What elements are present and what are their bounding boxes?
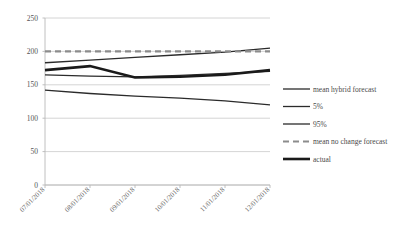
y-tick-label: 50 [31,147,39,156]
series-5- [45,90,270,105]
x-tick-label: 08/01/2018 [63,185,92,214]
axis-tickmarks [43,18,271,188]
chart-canvas: 050100150200250 07/01/201808/01/201809/0… [0,0,409,237]
x-tick-label: 07/01/2018 [18,185,47,214]
line-chart: 050100150200250 07/01/201808/01/201809/0… [0,0,409,237]
y-axis-tick-labels: 050100150200250 [27,14,39,190]
chart-legend: mean hybrid forecast5%95%mean no change … [283,85,388,164]
y-tick-label: 150 [27,80,39,89]
x-axis-tick-labels: 07/01/201808/01/201809/01/201810/01/2018… [18,185,272,214]
data-series-group [45,48,270,105]
x-tick-label: 12/01/2018 [243,185,272,214]
legend-label: 5% [313,102,323,111]
legend-label: mean hybrid forecast [313,85,377,94]
x-tick-label: 10/01/2018 [153,185,182,214]
y-tick-label: 200 [27,47,39,56]
series-95- [45,48,270,63]
y-tick-label: 250 [27,14,39,23]
legend-label: 95% [313,120,327,129]
legend-label: actual [313,155,331,164]
y-tick-label: 100 [27,114,39,123]
x-tick-label: 11/01/2018 [198,185,226,213]
legend-label: mean no change forecast [313,137,388,146]
x-tick-label: 09/01/2018 [108,185,137,214]
